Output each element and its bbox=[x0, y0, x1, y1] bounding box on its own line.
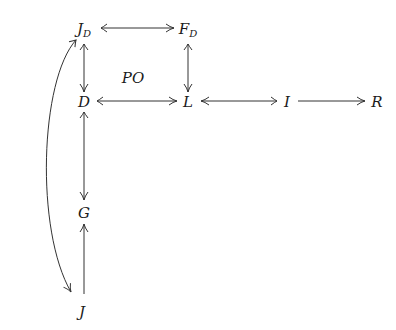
diagram-canvas bbox=[0, 0, 396, 330]
node-j: J bbox=[79, 305, 85, 320]
node-jd: JD bbox=[77, 22, 91, 39]
node-i: I bbox=[284, 95, 290, 110]
node-fd: FD bbox=[179, 22, 197, 39]
pushout-label: PO bbox=[122, 71, 144, 86]
node-g: G bbox=[78, 206, 90, 221]
node-r: R bbox=[371, 95, 382, 110]
node-jd-subscript: D bbox=[83, 28, 91, 39]
node-l: L bbox=[183, 95, 193, 110]
node-fd-label: F bbox=[179, 20, 189, 38]
edge-jd-j-curved bbox=[46, 40, 76, 292]
node-fd-subscript: D bbox=[189, 28, 197, 39]
node-d: D bbox=[78, 95, 90, 110]
